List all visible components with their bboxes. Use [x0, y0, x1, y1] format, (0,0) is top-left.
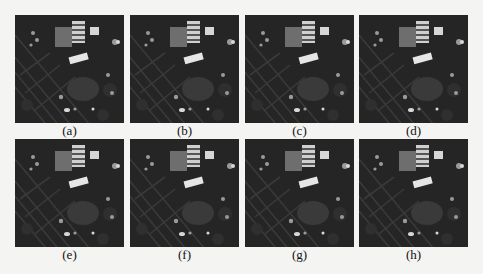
- image-panel-c: [245, 15, 354, 123]
- panel-label-g: (g): [245, 248, 354, 262]
- image-panel-d: [359, 15, 468, 123]
- panel-label-h: (h): [359, 248, 468, 262]
- panel-label-b: (b): [130, 124, 239, 138]
- image-panel-a: [15, 15, 124, 123]
- image-panel-b: [130, 15, 239, 123]
- panel-label-d: (d): [359, 124, 468, 138]
- image-panel-g: [245, 139, 354, 247]
- panel-label-e: (e): [15, 248, 124, 262]
- panel-label-f: (f): [130, 248, 239, 262]
- image-panel-h: [359, 139, 468, 247]
- image-panel-f: [130, 139, 239, 247]
- panel-label-a: (a): [15, 124, 124, 138]
- image-panel-e: [15, 139, 124, 247]
- panel-label-c: (c): [245, 124, 354, 138]
